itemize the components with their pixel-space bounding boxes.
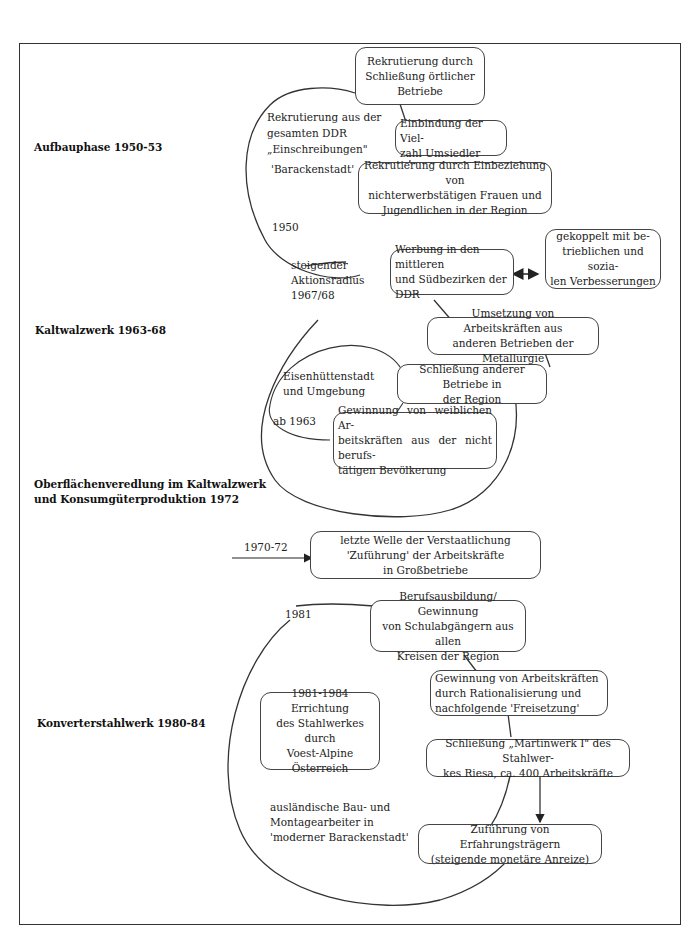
circle-1950-text: Rekrutierung aus der gesamten DDR „Einsc… (267, 109, 381, 157)
box-verstaatlichung: letzte Welle der Verstaatlichung 'Zuführ… (310, 531, 541, 579)
box-einbindung-umsiedler: Einbindung der Viel- zahl Umsiedler (395, 120, 507, 156)
phase-kaltwalz-label: Kaltwalzwerk 1963-68 (35, 323, 166, 338)
eisenhuettenstadt-label: Eisenhüttenstadt und Umgebung (283, 369, 374, 399)
box-schliessung-oertlicher-betriebe: Rekrutierung durch Schließung örtlicher … (355, 47, 485, 105)
box-werbung-suedbezirke: Werbung in den mittleren und Südbezirken… (390, 249, 514, 295)
box-martinwerk-riesa: Schließung „Martinwerk I" des Stahlwer- … (426, 739, 630, 777)
aktionsradius-label: steigender Aktionsradius 1967/68 (291, 258, 365, 303)
box-erfahrungstraeger: Zuführung von Erfahrungsträgern (steigen… (418, 824, 602, 864)
box-umsetzung-metallurgie: Umsetzung von Arbeitskräften aus anderen… (427, 317, 599, 355)
auslaendische-arbeiter-text: ausländische Bau- und Montagearbeiter in… (270, 800, 409, 845)
phase-konverter-label: Konverterstahlwerk 1980-84 (37, 716, 205, 731)
box-schliessung-anderer-betriebe: Schließung anderer Betriebe in der Regio… (397, 364, 547, 404)
box-gekoppelt-verbesserungen: gekoppelt mit be- trieblichen und sozia-… (545, 229, 661, 289)
box-errichtung-stahlwerk: 1981-1984 Errichtung des Stahlwerkes dur… (260, 692, 380, 770)
box-rationalisierung: Gewinnung von Arbeitskräften durch Ratio… (430, 670, 608, 716)
box-berufsausbildung: Berufsausbildung/ Gewinnung von Schulabg… (370, 600, 526, 652)
year-1950: 1950 (272, 220, 299, 235)
box-frauen-jugendliche: Rekrutierung durch Einbeziehung von nich… (358, 162, 552, 214)
box-weibliche-arbeitskraefte: Gewinnung von weiblichen Ar- beitskräfte… (333, 412, 497, 469)
phase-oberflaeche-label: Oberflächenveredlung im Kaltwalzwerk und… (34, 477, 266, 507)
year-1970-72: 1970-72 (244, 540, 288, 555)
barackenstadt-text: 'Barackenstadt' (271, 162, 354, 177)
year-1981: 1981 (285, 607, 312, 622)
phase-aufbau-label: Aufbauphase 1950-53 (34, 140, 162, 155)
year-ab-1963: ab 1963 (273, 414, 316, 429)
